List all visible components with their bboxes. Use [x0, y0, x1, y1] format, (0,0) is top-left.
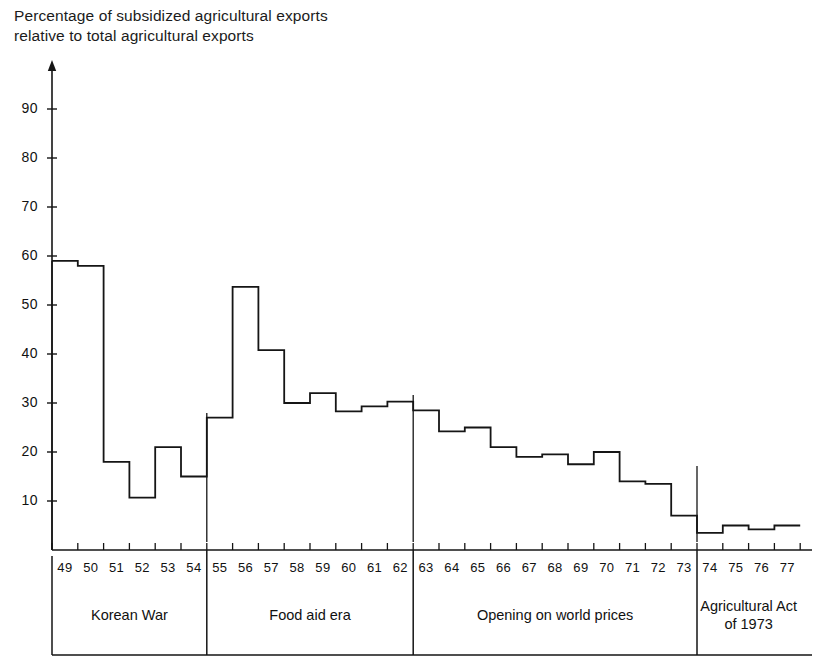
x-axis-tick-label: 50 [78, 560, 104, 575]
x-axis-tick-label: 77 [774, 560, 800, 575]
x-axis-tick-label: 72 [645, 560, 671, 575]
x-axis-tick-label: 58 [284, 560, 310, 575]
x-axis-tick-label: 68 [542, 560, 568, 575]
y-axis-tick-label: 80 [4, 149, 38, 165]
data-step-line [52, 261, 800, 533]
x-axis-tick-label: 55 [207, 560, 233, 575]
period-band-label: Food aid era [207, 606, 413, 624]
y-axis-tick-label: 20 [4, 443, 38, 459]
period-band-label: Agricultural Act of 1973 [697, 597, 800, 633]
x-axis-tick-label: 70 [594, 560, 620, 575]
y-axis-arrow-icon [48, 60, 56, 71]
x-axis-tick-label: 54 [181, 560, 207, 575]
x-axis-tick-label: 73 [671, 560, 697, 575]
y-axis-tick-label: 30 [4, 394, 38, 410]
x-axis-tick-label: 49 [52, 560, 78, 575]
y-axis-tick-label: 60 [4, 247, 38, 263]
x-axis-tick-label: 74 [697, 560, 723, 575]
period-band-label: Opening on world prices [413, 606, 697, 624]
x-axis-tick-label: 63 [413, 560, 439, 575]
x-axis-tick-label: 64 [439, 560, 465, 575]
y-axis-tick-label: 10 [4, 492, 38, 508]
x-axis-tick-label: 62 [387, 560, 413, 575]
x-axis-tick-label: 56 [233, 560, 259, 575]
x-axis-tick-label: 76 [749, 560, 775, 575]
y-axis-tick-label: 40 [4, 345, 38, 361]
x-axis-tick-label: 59 [310, 560, 336, 575]
x-axis-tick-label: 60 [336, 560, 362, 575]
x-axis-tick-label: 65 [465, 560, 491, 575]
x-axis-tick-label: 57 [258, 560, 284, 575]
x-axis-tick-label: 75 [723, 560, 749, 575]
x-axis-tick-label: 52 [129, 560, 155, 575]
chart-figure: Percentage of subsidized agricultural ex… [0, 0, 840, 670]
y-axis-tick-label: 70 [4, 198, 38, 214]
x-axis-tick-label: 51 [104, 560, 130, 575]
x-axis-tick-label: 69 [568, 560, 594, 575]
y-axis-tick-label: 50 [4, 296, 38, 312]
x-axis-tick-label: 66 [491, 560, 517, 575]
y-axis-tick-label: 90 [4, 100, 38, 116]
x-axis-tick-label: 61 [362, 560, 388, 575]
x-axis-tick-label: 71 [620, 560, 646, 575]
x-axis-tick-label: 53 [155, 560, 181, 575]
x-axis-tick-label: 67 [516, 560, 542, 575]
period-band-label: Korean War [52, 606, 207, 624]
